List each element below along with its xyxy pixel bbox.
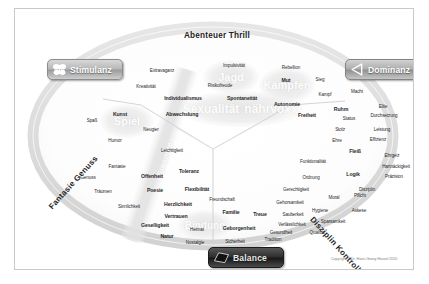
- value-word: Genuss: [80, 175, 95, 180]
- value-word: Disziplin: [359, 187, 375, 192]
- value-word: Freiheit: [298, 112, 316, 118]
- value-word: Stolz: [335, 127, 345, 132]
- value-word: Pflicht: [354, 193, 366, 198]
- value-word: Qualität: [309, 230, 324, 235]
- value-word: Herzlichkeit: [164, 201, 192, 207]
- badge-stimulanz[interactable]: Stimulanz: [47, 59, 123, 80]
- value-word: Toleranz: [179, 168, 199, 174]
- value-word: Leistung: [374, 127, 391, 132]
- copyright-notice: Copyright © Dr. Hans-Georg Häusel 2010: [331, 257, 397, 261]
- value-word: Träumen: [94, 189, 112, 194]
- value-word: Hygiene: [312, 208, 328, 213]
- value-word: Funktionalität: [300, 159, 326, 164]
- value-word: Sicherheit: [225, 239, 244, 244]
- value-word: Poesie: [147, 187, 163, 193]
- value-word: Ehre: [332, 138, 341, 143]
- value-word: Familie: [222, 209, 239, 215]
- badge-dominanz[interactable]: Dominanz: [345, 59, 414, 80]
- value-word: Heimat: [190, 227, 204, 232]
- value-word: Abwechslung: [166, 111, 199, 117]
- value-word: Kampf: [319, 92, 332, 97]
- value-word: Offenheit: [141, 173, 163, 179]
- triangle-left-icon: [350, 62, 365, 77]
- limbic-map-screenshot: Abenteuer Thrill Fantasie Genuss Diszipl…: [0, 0, 429, 284]
- value-word: Durchsetzung: [370, 113, 397, 118]
- value-word: Freundschaft: [209, 197, 235, 202]
- value-word: Sauberkeit: [283, 212, 304, 217]
- value-word: Askese: [352, 208, 366, 213]
- value-word: Gehorsamkeit: [276, 200, 303, 205]
- value-word: Spaß: [87, 118, 98, 123]
- value-word: Gerechtigkeit: [283, 187, 309, 192]
- value-word: Vertrauen: [164, 213, 187, 219]
- value-word: Sparsamkeit: [321, 219, 345, 224]
- value-word: Spontaneität: [227, 95, 257, 101]
- value-word: Kreativität: [136, 84, 155, 89]
- value-word: Fleiß: [349, 148, 361, 154]
- value-word: Flexibilität: [185, 186, 209, 192]
- value-word: Ruhm: [334, 106, 348, 112]
- value-word: Neugier: [143, 127, 158, 132]
- value-word: Moral: [329, 195, 340, 200]
- value-word: Mut: [282, 77, 291, 83]
- badge-balance-label: Balance: [233, 253, 267, 263]
- value-word: Tradition: [265, 237, 282, 242]
- slide-frame: Abenteuer Thrill Fantasie Genuss Diszipl…: [14, 8, 414, 270]
- value-word: Sieg: [316, 77, 325, 82]
- value-word: Hartnäckigkeit: [382, 164, 410, 169]
- value-word: Geborgenheit: [223, 225, 256, 231]
- value-word: Ordnung: [302, 175, 319, 180]
- value-word: Natur: [160, 233, 173, 239]
- value-word: Risikofreude: [208, 83, 232, 88]
- value-word: Individualismus: [164, 95, 202, 101]
- value-word: Sinnlichkeit: [118, 204, 140, 209]
- value-word: Status: [343, 116, 355, 121]
- value-word: Fantasie: [109, 164, 126, 169]
- value-word: Nostalgie: [186, 240, 204, 245]
- value-word: Rebellion: [282, 65, 300, 70]
- badge-balance[interactable]: Balance: [208, 247, 284, 268]
- value-word: Impulsivität: [223, 63, 245, 68]
- value-word: Geselligkeit: [141, 222, 169, 228]
- value-word: Ehrgeiz: [385, 153, 400, 158]
- badge-stimulanz-label: Stimulanz: [70, 65, 112, 75]
- value-word: Gesundheit: [270, 230, 293, 235]
- value-word: Extravaganz: [150, 68, 174, 73]
- value-word: Präzision: [385, 174, 403, 179]
- value-word: Logik: [346, 171, 359, 177]
- quadrilateral-icon: [213, 250, 230, 265]
- value-word: Treue: [253, 211, 266, 217]
- value-word: Kunst: [113, 111, 127, 117]
- value-word: Leichtigkeit: [161, 148, 183, 153]
- axis-label-abenteuer-thrill: Abenteuer Thrill: [184, 31, 250, 40]
- butterfly-icon: [52, 62, 67, 77]
- limbic-map-graphic: [15, 9, 414, 270]
- value-word: Macht: [351, 89, 363, 94]
- badge-dominanz-label: Dominanz: [368, 65, 410, 75]
- value-word: Humor: [108, 138, 121, 143]
- value-word: Verlässlichkeit: [278, 222, 306, 227]
- value-word: Autonomie: [274, 101, 300, 107]
- instinct-word: Jagd: [218, 71, 244, 83]
- value-word: Elite: [379, 104, 387, 109]
- value-word: Effizienz: [370, 137, 386, 142]
